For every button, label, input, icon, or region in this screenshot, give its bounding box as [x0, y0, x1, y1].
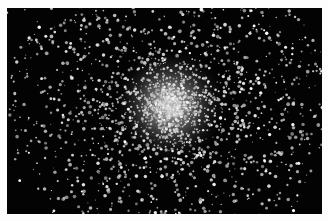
star-field: [7, 8, 322, 214]
photo-border: [0, 0, 328, 221]
star-cluster-photo: [7, 8, 322, 214]
